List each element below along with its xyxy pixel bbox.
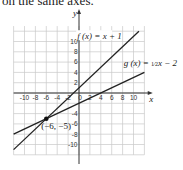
- g-label: g (x) = 1⁄2x − 2: [124, 58, 178, 68]
- intersection-label: (−6, −5): [41, 121, 71, 131]
- y-tick-label: -8: [72, 131, 78, 138]
- y-axis-label: y: [72, 8, 77, 18]
- x-tick-label: 4: [99, 94, 103, 101]
- x-tick-label: 8: [121, 94, 125, 101]
- y-axis-arrow-icon: [77, 9, 81, 14]
- x-axis-label: x: [148, 94, 153, 104]
- x-tick-label: 0: [78, 94, 82, 101]
- x-tick-label: -6: [43, 94, 49, 101]
- y-tick-label: -4: [72, 110, 78, 117]
- y-tick-label: 2: [74, 79, 78, 86]
- x-tick-label: -4: [54, 94, 60, 101]
- coordinate-graph: -10-8-6-4-20246810108642-4-6-8-10(−6, −5…: [0, 0, 183, 170]
- x-tick-label: -8: [33, 94, 39, 101]
- y-tick-label: 4: [74, 69, 78, 76]
- y-tick-label: 6: [74, 58, 78, 65]
- x-tick-label: 10: [130, 94, 138, 101]
- f-label: f (x) = x + 1: [77, 31, 121, 41]
- x-tick-label: -10: [20, 94, 30, 101]
- y-tick-label: -10: [68, 141, 78, 148]
- x-tick-label: 6: [110, 94, 114, 101]
- y-tick-label: -6: [72, 120, 78, 127]
- y-tick-label: 8: [74, 48, 78, 55]
